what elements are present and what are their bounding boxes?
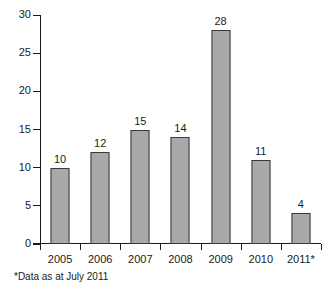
y-axis-tick-label-wrap: 30: [0, 9, 31, 20]
x-axis-category-label: 2008: [159, 253, 203, 265]
y-axis-tick-label-wrap: 0: [0, 238, 31, 249]
y-axis-tick: [33, 167, 40, 168]
x-axis-category-label: 2010: [239, 253, 283, 265]
y-axis-tick-label: 25: [1, 47, 31, 58]
x-axis-tick: [120, 244, 121, 250]
bar: [291, 213, 310, 244]
y-axis-tick: [33, 129, 40, 130]
bar-group: 12: [80, 15, 120, 244]
bar-group: 4: [281, 15, 321, 244]
bar: [251, 160, 270, 244]
y-axis-tick: [33, 91, 40, 92]
y-axis-tick-label-wrap: 25: [0, 47, 31, 58]
y-axis-tick: [33, 205, 40, 206]
bar-value-label: 28: [215, 16, 227, 27]
bar: [211, 30, 230, 244]
bar-value-label: 12: [94, 138, 106, 149]
y-axis-tick-label: 5: [1, 200, 31, 211]
bar-value-label: 10: [54, 154, 66, 165]
x-axis-tick: [160, 244, 161, 250]
bar-group: 15: [120, 15, 160, 244]
x-axis-tick: [321, 244, 322, 250]
bar-group: 10: [40, 15, 80, 244]
x-axis-tick: [201, 244, 202, 250]
y-axis-tick-label-wrap: 10: [0, 162, 31, 173]
x-axis-category-label: 2011*: [279, 253, 323, 265]
y-axis-tick-label: 20: [1, 85, 31, 96]
bar-group: 11: [241, 15, 281, 244]
x-axis-category-label: 2006: [78, 253, 122, 265]
y-axis-tick-label: 15: [1, 124, 31, 135]
y-axis-tick: [33, 244, 40, 245]
x-axis-category-label: 2005: [38, 253, 82, 265]
x-axis-category-label: 2009: [199, 253, 243, 265]
x-axis-tick: [281, 244, 282, 250]
bar-group: 14: [160, 15, 200, 244]
y-axis-tick-label: 10: [1, 162, 31, 173]
bar-value-label: 15: [134, 116, 146, 127]
y-axis-tick-label-wrap: 15: [0, 124, 31, 135]
plot-area: 1012151428114: [40, 15, 321, 244]
x-axis-category-label: 2007: [118, 253, 162, 265]
x-axis-tick: [40, 244, 41, 250]
x-axis-tick: [241, 244, 242, 250]
y-axis-tick: [33, 15, 40, 16]
y-axis-tick-label: 0: [1, 238, 31, 249]
bar-value-label: 4: [298, 199, 304, 210]
bar-value-label: 11: [255, 146, 266, 157]
bar: [131, 130, 150, 245]
bar: [51, 168, 70, 244]
bar: [171, 137, 190, 244]
y-axis-tick-label-wrap: 20: [0, 85, 31, 96]
y-axis-tick-label-wrap: 5: [0, 200, 31, 211]
bar-value-label: 14: [174, 123, 186, 134]
bar-group: 28: [201, 15, 241, 244]
y-axis-tick: [33, 53, 40, 54]
x-axis-tick: [80, 244, 81, 250]
y-axis-tick-label: 30: [1, 9, 31, 20]
bar: [91, 152, 110, 244]
bar-chart: 051015202530 1012151428114 2005200620072…: [0, 0, 334, 302]
footnote: *Data as at July 2011: [14, 271, 108, 283]
